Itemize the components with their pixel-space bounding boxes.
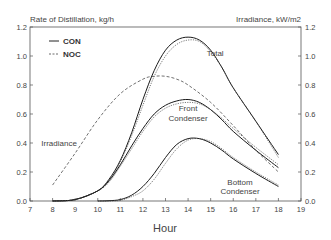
y-right-tick-label: 0.4 <box>305 139 315 148</box>
x-tick-label: 15 <box>206 205 214 214</box>
annotation-label: Bottom <box>227 178 253 187</box>
y-axis-left-ticks: 0.00.20.40.60.81.01.2 <box>17 23 33 206</box>
y-right-tick-label: 0.2 <box>305 168 315 177</box>
x-tick-label: 17 <box>252 205 260 214</box>
y-left-tick-label: 0.0 <box>17 197 27 206</box>
y-right-tick-label: 1.2 <box>305 23 315 32</box>
y-axis-right-title: Irradiance, kW/m2 <box>236 15 301 24</box>
y-right-tick-label: 0.6 <box>305 110 315 119</box>
distillation-irradiance-chart: 78910111213141516171819 0.00.20.40.60.81… <box>0 0 331 240</box>
y-right-tick-label: 0.0 <box>305 197 315 206</box>
total-noc-line <box>53 40 279 201</box>
x-tick-label: 9 <box>73 205 77 214</box>
x-tick-label: 16 <box>229 205 237 214</box>
x-tick-label: 7 <box>28 205 32 214</box>
x-tick-label: 19 <box>297 205 305 214</box>
y-axis-left-title: Rate of Distillation, kg/h <box>30 15 114 24</box>
x-tick-label: 8 <box>50 205 54 214</box>
y-left-tick-label: 1.0 <box>17 52 27 61</box>
x-tick-label: 13 <box>161 205 169 214</box>
y-left-tick-label: 0.6 <box>17 110 27 119</box>
annotation-label: Total <box>207 49 224 58</box>
legend-label-noc: NOC <box>63 50 81 59</box>
x-tick-label: 14 <box>184 205 192 214</box>
annotation-label: Condenser <box>169 114 208 123</box>
x-axis-title: Hour <box>153 222 177 234</box>
total-con-line <box>53 37 279 201</box>
x-tick-label: 12 <box>139 205 147 214</box>
x-tick-label: 18 <box>274 205 282 214</box>
y-left-tick-label: 0.2 <box>17 168 27 177</box>
series-lines <box>53 37 279 201</box>
y-right-tick-label: 0.8 <box>305 81 315 90</box>
y-left-tick-label: 0.4 <box>17 139 27 148</box>
x-tick-label: 10 <box>94 205 102 214</box>
x-tick-label: 11 <box>116 205 124 214</box>
y-left-tick-label: 1.2 <box>17 23 27 32</box>
y-left-tick-label: 0.8 <box>17 81 27 90</box>
annotation-label: Front <box>179 104 198 113</box>
y-right-tick-label: 1.0 <box>305 52 315 61</box>
annotation-label: Condenser <box>220 187 259 196</box>
irradiance-line <box>53 76 279 185</box>
legend-label-con: CON <box>63 37 81 46</box>
legend: CON NOC <box>49 37 81 59</box>
annotation-label: Irradiance <box>41 139 77 148</box>
